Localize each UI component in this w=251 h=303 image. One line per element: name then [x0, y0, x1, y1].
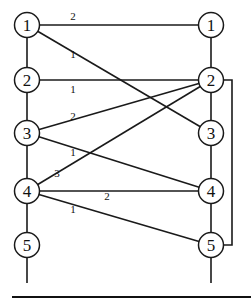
svg-text:4: 4: [207, 182, 216, 201]
edge-l3-r2: [27, 80, 211, 133]
edge-label-l1-r3: 1: [70, 48, 76, 60]
bracket-r2-r5: [224, 80, 232, 245]
svg-text:3: 3: [207, 124, 216, 143]
left-node-4: 4: [15, 179, 40, 204]
edge-label-l2-r2: 1: [70, 83, 76, 95]
edge-label-l3-r2: 2: [70, 110, 76, 122]
edges: [27, 25, 211, 245]
right-node-1: 1: [199, 13, 224, 38]
left-node-5: 5: [15, 233, 40, 258]
edge-label-l3-r4: 1: [70, 146, 76, 158]
svg-text:1: 1: [207, 16, 216, 35]
svg-text:2: 2: [23, 71, 32, 90]
edge-label-l1-r1: 2: [70, 10, 76, 22]
svg-text:5: 5: [207, 236, 216, 255]
left-node-3: 3: [15, 121, 40, 146]
edge-label-l4-r2: 3: [54, 167, 60, 179]
edge-l3-r4: [27, 133, 211, 191]
edge-l4-r5: [27, 191, 211, 245]
svg-text:2: 2: [207, 71, 216, 90]
right-node-5: 5: [199, 233, 224, 258]
left-node-2: 2: [15, 68, 40, 93]
right-node-4: 4: [199, 179, 224, 204]
svg-text:3: 3: [23, 124, 32, 143]
svg-text:1: 1: [23, 16, 32, 35]
svg-text:4: 4: [23, 182, 32, 201]
right-node-2: 2: [199, 68, 224, 93]
left-node-1: 1: [15, 13, 40, 38]
edge-labels: 2 1 1 2 1 3 2 1: [54, 10, 110, 215]
svg-text:5: 5: [23, 236, 32, 255]
edge-label-l4-r4: 2: [104, 190, 110, 202]
edge-l1-r3: [27, 25, 211, 133]
bipartite-graph: 2 1 1 2 1 3 2 1 1 2 3 4 5: [0, 0, 251, 303]
edge-label-l4-r5: 1: [70, 203, 76, 215]
right-node-3: 3: [199, 121, 224, 146]
